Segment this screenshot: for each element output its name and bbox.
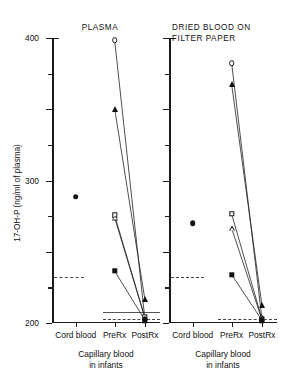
data-point-subject-2-prerx	[112, 106, 118, 112]
x-axis-label-prerx: PreRx	[103, 330, 126, 340]
data-point-subject-4-prerx	[112, 215, 118, 220]
y-tick-label: 300	[25, 176, 39, 186]
x-tick	[115, 323, 116, 327]
data-point-subject-5-postrx	[142, 317, 147, 322]
plot-area-plasma: 0100200300400Cord bloodPreRxPostRx	[52, 38, 160, 323]
data-point-cord-blood-filled-circle	[190, 220, 196, 226]
x-tick	[193, 323, 194, 327]
data-point-subject-5-postrx	[259, 317, 264, 322]
data-point-subject-4-prerx	[229, 226, 235, 231]
x-tick	[145, 323, 146, 327]
data-point-subject-1-prerx	[229, 60, 235, 66]
data-point-subject-5-prerx	[112, 268, 117, 273]
data-point-subject-2-prerx	[229, 81, 235, 87]
y-tick-major	[163, 323, 169, 324]
data-point-subject-2-postrx	[259, 302, 265, 308]
plot-area-dried-blood: Cord bloodPreRxPostRx	[169, 38, 277, 323]
connector-subject-1	[232, 63, 262, 318]
data-point-subject-2-postrx	[142, 296, 148, 302]
connector-subject-1	[115, 40, 145, 319]
data-point-subject-3-prerx	[229, 211, 234, 216]
panel-dried-blood: DRIED BLOOD ON FILTER PAPER Cord bloodPr…	[162, 0, 295, 387]
connector-subject-2	[232, 84, 262, 305]
x-axis-label-cord-blood: Cord blood	[55, 330, 96, 340]
panel-caption-plasma: Capillary blood in infants	[52, 349, 160, 371]
connector-subject-4	[115, 218, 145, 318]
data-point-cord-blood-filled-circle	[73, 194, 79, 200]
x-axis-label-prerx: PreRx	[220, 330, 243, 340]
figure-root: 17-OH-P (ng/ml of plasma) PLASMA 0100200…	[0, 0, 295, 387]
x-tick	[76, 323, 77, 327]
x-axis-label-postrx: PostRx	[131, 330, 158, 340]
connector-lines	[169, 38, 277, 323]
panel-plasma: PLASMA 0100200300400Cord bloodPreRxPostR…	[0, 0, 162, 387]
y-tick-label: 200	[25, 318, 39, 328]
panel-title-plasma: PLASMA	[40, 23, 160, 34]
panel-caption-dried-blood: Capillary blood in infants	[169, 349, 277, 371]
connector-subject-2	[115, 109, 145, 300]
connector-lines	[52, 38, 160, 323]
connector-subject-3	[232, 214, 262, 319]
x-axis-label-cord-blood: Cord blood	[172, 330, 213, 340]
data-point-subject-5-prerx	[229, 272, 234, 277]
x-axis-label-postrx: PostRx	[248, 330, 275, 340]
x-tick	[232, 323, 233, 327]
data-point-subject-1-prerx	[112, 37, 118, 43]
x-tick	[262, 323, 263, 327]
y-tick-label: 400	[25, 33, 39, 43]
y-tick-major: 0	[46, 323, 52, 324]
